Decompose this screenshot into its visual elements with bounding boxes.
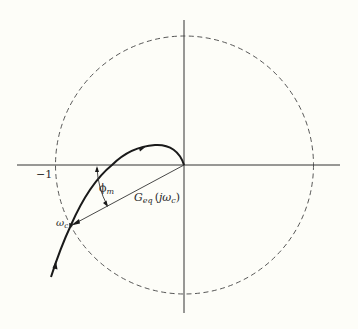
phase-margin-arrow-top	[95, 166, 99, 172]
phase-margin-arrow-bottom	[103, 201, 108, 208]
crossover-point	[69, 223, 73, 227]
nyquist-diagram: −1 ϕm ωc Geq(jωc)	[0, 0, 358, 329]
vector-label: Geq(jωc)	[134, 191, 180, 205]
minus-one-label: −1	[36, 168, 52, 181]
phase-margin-label: ϕm	[99, 182, 115, 196]
crossover-label: ωc	[56, 217, 68, 230]
